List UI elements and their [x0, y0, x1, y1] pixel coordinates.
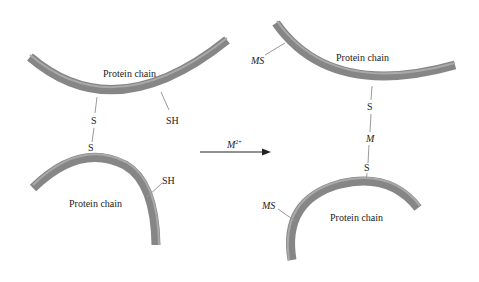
sulfur-label: S: [367, 102, 373, 112]
bond-line: [265, 43, 285, 55]
bond-line: [161, 92, 169, 110]
bond-line: [371, 86, 372, 100]
bond-line: [368, 145, 369, 163]
protein-chain-left-top: [30, 40, 227, 90]
bond-line: [370, 114, 371, 132]
reagent-label: M2+: [227, 139, 242, 150]
metal-sulfide-label: MS: [262, 201, 275, 211]
protein-chain-label: Protein chain: [336, 53, 389, 63]
metal-label: M: [366, 134, 374, 144]
diagram-canvas: Protein chain S SH S SH Protein chain M2…: [0, 0, 479, 282]
protein-chain-label: Protein chain: [330, 213, 383, 223]
thiol-label: SH: [162, 176, 175, 186]
reaction-arrow-head: [262, 149, 271, 156]
protein-chain-label: Protein chain: [103, 69, 156, 79]
sulfur-label: S: [364, 163, 370, 173]
bond-line: [92, 128, 94, 142]
protein-chain-label: Protein chain: [69, 199, 122, 209]
metal-sulfide-label: MS: [251, 56, 264, 66]
sulfur-label: S: [88, 143, 94, 153]
bond-line: [95, 97, 97, 113]
protein-chain-right-top: [276, 23, 455, 76]
thiol-label: SH: [166, 116, 179, 126]
sulfur-label: S: [91, 116, 97, 126]
